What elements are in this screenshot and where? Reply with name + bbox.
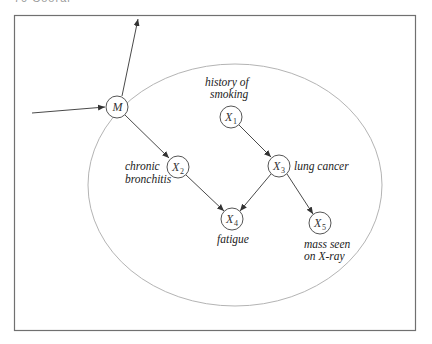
svg-text:X: X xyxy=(224,110,233,124)
node-x3: X 3 lung cancer xyxy=(268,155,349,177)
edge-x2-to-x4 xyxy=(186,175,224,211)
svg-text:4: 4 xyxy=(234,219,238,228)
node-x5: X 5 mass seen on X-ray xyxy=(304,212,351,263)
edge-in-to-m xyxy=(32,107,105,113)
edge-m-to-out xyxy=(122,19,138,96)
edge-m-to-x2 xyxy=(125,115,169,158)
node-x2: X 2 chronic bronchitis xyxy=(125,156,189,185)
svg-text:2: 2 xyxy=(180,167,184,176)
x4-description: fatigue xyxy=(217,233,249,246)
svg-text:5: 5 xyxy=(322,223,326,232)
svg-text:X: X xyxy=(313,216,322,230)
svg-text:1: 1 xyxy=(233,117,237,126)
node-x4: X 4 fatigue xyxy=(217,208,249,246)
bayesian-network-diagram: M X 1 history of smoking X 2 chronic bro… xyxy=(0,0,432,344)
edge-x3-to-x4 xyxy=(240,174,271,211)
svg-text:X: X xyxy=(171,160,180,174)
edge-x1-to-x3 xyxy=(239,125,271,157)
svg-text:M: M xyxy=(112,100,124,114)
x5-description-line2: on X-ray xyxy=(304,250,345,263)
node-m: M xyxy=(106,96,128,118)
svg-text:3: 3 xyxy=(281,166,285,175)
edge-x3-to-x5 xyxy=(287,174,313,214)
node-x1: X 1 history of smoking xyxy=(205,76,251,128)
figure-frame xyxy=(15,16,416,331)
svg-text:X: X xyxy=(272,159,281,173)
x2-description-line2: bronchitis xyxy=(125,173,172,185)
x3-description: lung cancer xyxy=(294,160,349,173)
domain-boundary-ellipse xyxy=(88,64,382,306)
x2-description-line1: chronic xyxy=(125,160,160,172)
x1-description-line2: smoking xyxy=(210,88,249,101)
svg-text:X: X xyxy=(225,212,234,226)
x5-description-line1: mass seen xyxy=(304,238,351,250)
